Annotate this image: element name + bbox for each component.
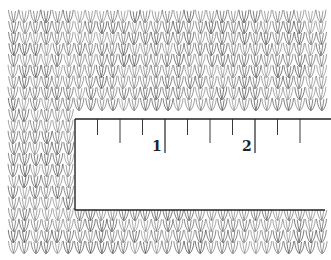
knit-stitch — [130, 10, 140, 23]
knit-stitch — [74, 98, 84, 111]
knit-stitch — [108, 21, 118, 34]
knit-stitch — [273, 230, 283, 243]
knit-stitch — [141, 219, 151, 232]
knit-stitch — [30, 10, 40, 23]
knit-stitch — [306, 76, 316, 89]
knit-stitch — [251, 21, 261, 34]
knit-stitch — [317, 54, 327, 67]
knit-stitch — [283, 219, 293, 232]
knit-stitch — [19, 10, 29, 23]
ruler-label-2: 2 — [242, 138, 252, 154]
knit-stitch — [317, 241, 327, 254]
knit-stitch — [185, 98, 195, 111]
knit-stitch — [130, 87, 140, 100]
knit-stitch — [217, 10, 227, 23]
knit-stitch — [107, 76, 117, 89]
knit-stitch — [31, 175, 41, 188]
knit-stitch — [108, 65, 118, 78]
knit-stitch — [9, 175, 19, 188]
knit-stitch — [251, 54, 261, 67]
ruler-label-1: 1 — [152, 138, 162, 154]
knit-stitch — [251, 98, 261, 111]
knit-stitch — [53, 10, 63, 23]
knit-stitch — [63, 164, 73, 177]
knit-stitch — [9, 142, 19, 155]
knit-stitch — [9, 197, 19, 210]
knit-stitch — [273, 10, 283, 23]
knit-stitch — [196, 98, 206, 111]
knit-stitch — [196, 219, 206, 232]
knit-stitch — [31, 153, 41, 166]
knit-stitch — [53, 43, 63, 56]
knit-stitch — [108, 241, 118, 254]
knit-stitch — [64, 131, 74, 144]
knit-stitch — [118, 230, 128, 243]
knit-stitch — [108, 98, 118, 111]
knit-stitch — [174, 43, 184, 56]
knit-stitch — [42, 131, 52, 144]
knit-stitch — [130, 241, 140, 254]
knit-stitch — [217, 87, 227, 100]
knit-stitch — [20, 164, 30, 177]
knit-stitch — [195, 10, 205, 23]
knit-stitch — [41, 10, 51, 23]
ruler: 1 2 — [75, 118, 331, 210]
knit-stitch — [306, 32, 316, 45]
knit-stitch — [284, 10, 294, 23]
knit-stitch — [207, 54, 217, 67]
knit-stitch — [31, 109, 41, 122]
knit-stitch — [75, 230, 85, 243]
knit-stitch — [152, 10, 162, 23]
knit-stitch — [119, 54, 129, 67]
knit-stitch — [85, 10, 95, 23]
knit-stitch — [228, 10, 238, 23]
knit-stitch — [240, 219, 250, 232]
knit-stitch — [64, 175, 74, 188]
knit-stitch — [317, 98, 327, 111]
knit-stitch — [151, 21, 161, 34]
knit-stitch — [218, 54, 228, 67]
knit-stitch — [184, 87, 194, 100]
knit-stitch — [86, 87, 96, 100]
knitting-gauge-illustration: 1 2 — [0, 0, 331, 260]
knit-stitch — [240, 241, 250, 254]
knit-stitch — [97, 10, 107, 23]
knit-stitch — [184, 10, 194, 23]
knit-stitch — [30, 164, 40, 177]
knit-stitch — [19, 175, 29, 188]
knit-stitch — [239, 10, 249, 23]
knit-stitch — [250, 10, 260, 23]
knit-stitch — [316, 10, 326, 23]
knit-stitch — [229, 76, 239, 89]
knit-stitch — [75, 10, 85, 23]
knit-stitch — [162, 10, 172, 23]
knit-stitch — [163, 219, 173, 232]
knit-stitch — [119, 87, 129, 100]
knit-stitch — [97, 241, 107, 254]
knit-stitch — [20, 186, 30, 199]
knit-stitch — [52, 54, 62, 67]
knit-stitch — [119, 21, 129, 34]
knit-stitch — [63, 76, 73, 89]
knit-stitch — [9, 76, 19, 89]
knit-stitch — [130, 43, 140, 56]
knit-stitch — [174, 10, 184, 23]
knit-stitch — [262, 43, 272, 56]
knit-stitch — [118, 10, 128, 23]
knit-stitch — [20, 87, 30, 100]
knit-stitch — [63, 10, 73, 23]
knit-stitch — [8, 10, 18, 23]
knit-stitch — [284, 65, 294, 78]
knit-stitch — [185, 76, 195, 89]
knit-stitch — [140, 10, 150, 23]
knit-stitch — [239, 54, 249, 67]
knit-stitch — [53, 153, 63, 166]
knit-stitch — [261, 10, 271, 23]
knit-stitch — [305, 10, 315, 23]
knit-stitch — [295, 87, 305, 100]
knit-stitch — [20, 54, 30, 67]
knit-stitch — [97, 87, 107, 100]
knit-stitch — [229, 98, 239, 111]
knit-stitch — [31, 219, 41, 232]
knit-stitch — [97, 219, 107, 232]
